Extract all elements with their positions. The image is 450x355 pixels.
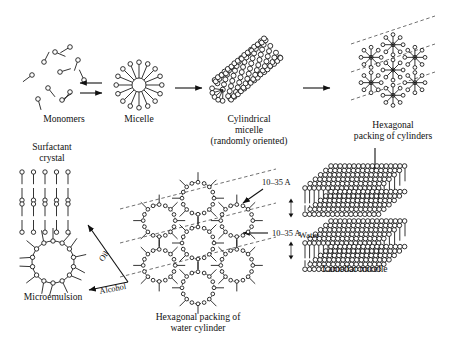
label-hexcyl-2: packing of cylinders <box>354 130 433 141</box>
lamellar-micelle-group <box>303 164 407 272</box>
dimension-top-label: 10–35 A <box>262 178 291 187</box>
equilibrium-arrows <box>80 83 102 93</box>
label-alcohol: Alcohol <box>99 282 128 296</box>
label-micelle: Micelle <box>124 113 153 124</box>
cylindrical-micelle-group <box>210 36 283 103</box>
label-lamellar: Lamellar micelle <box>322 263 387 274</box>
label-cylindrical-2: micelle <box>235 124 263 135</box>
label-hexcyl-1: Hexagonal <box>372 119 414 130</box>
label-microemulsion: Microemulsion <box>24 291 83 302</box>
monomers-group <box>23 45 86 110</box>
hexagonal-cylinders-group <box>351 16 435 107</box>
label-crystal-2: crystal <box>39 152 65 163</box>
dimension-bottom-label: 10–35 A <box>272 229 301 238</box>
label-oil: Oil <box>97 249 111 263</box>
diagram-svg: Monomers Micelle Cylindrical micelle (ra… <box>0 0 450 355</box>
label-crystal-1: Surfactant <box>32 141 72 152</box>
microemulsion-group <box>20 228 87 296</box>
label-water: Water <box>299 230 319 240</box>
label-cylindrical-3: (randomly oriented) <box>211 135 288 147</box>
figure-canvas: Monomers Micelle Cylindrical micelle (ra… <box>0 0 450 355</box>
arrow-dimension-top <box>243 189 263 203</box>
label-cylindrical-1: Cylindrical <box>227 113 270 124</box>
micelle-group <box>114 60 164 110</box>
label-monomers: Monomers <box>43 113 85 124</box>
label-hexwater-2: water cylinder <box>170 322 226 333</box>
surfactant-crystal-group <box>20 170 70 235</box>
hexagonal-water-group <box>120 169 276 314</box>
label-hexwater-1: Hexagonal packing of <box>156 311 242 322</box>
